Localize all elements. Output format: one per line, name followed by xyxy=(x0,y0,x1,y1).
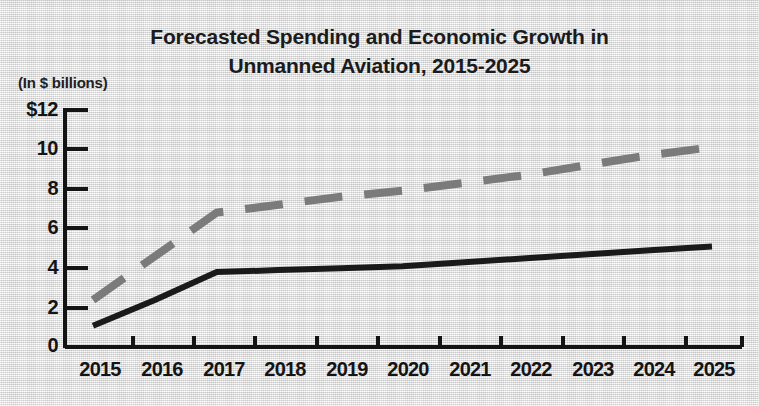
series-line-economic-growth xyxy=(93,147,712,300)
series-group xyxy=(93,147,712,326)
y-tick-label-8: 8 xyxy=(0,177,58,200)
series-line-spending xyxy=(93,246,712,325)
y-axis-ticks xyxy=(65,110,88,308)
y-tick-label-10: 10 xyxy=(0,137,58,160)
y-tick-label-6: 6 xyxy=(0,216,58,239)
x-tick-label-2025: 2025 xyxy=(678,358,750,381)
y-tick-label-4: 4 xyxy=(0,256,58,279)
y-tick-label-2: 2 xyxy=(0,296,58,319)
y-tick-label-12: $12 xyxy=(0,98,58,121)
y-tick-label-0: 0 xyxy=(0,334,58,357)
plot-area xyxy=(0,0,759,406)
chart-figure: Forecasted Spending and Economic Growth … xyxy=(0,0,759,406)
